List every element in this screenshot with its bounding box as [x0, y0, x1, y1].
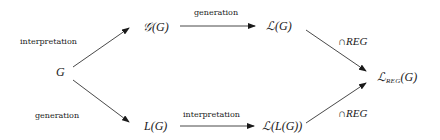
node-g: G: [56, 66, 65, 78]
reg-language-arg: (G): [401, 70, 418, 84]
label-generation-bottom: generation: [35, 112, 79, 120]
node-l-g: L(G): [144, 120, 167, 132]
label-intersect-reg-top: ∩REG: [338, 36, 367, 47]
intersection-symbol: ∩: [338, 107, 346, 119]
label-generation-top: generation: [194, 9, 238, 17]
reg-text: REG: [346, 107, 367, 119]
label-intersect-reg-bottom: ∩REG: [338, 108, 367, 119]
reg-text: REG: [346, 35, 367, 47]
arrow-g-to-l-g: [73, 80, 129, 122]
label-interpretation-top: interpretation: [20, 38, 77, 46]
label-interpretation-bottom: interpretation: [183, 111, 240, 119]
arrow-g-to-grammar-set: [73, 28, 129, 67]
node-regular-language: ℒREG(G): [377, 71, 417, 85]
node-language-of-grammar: ℒ(G): [266, 20, 292, 32]
intersection-symbol: ∩: [338, 35, 346, 47]
node-grammar-set: 𝒢(G): [143, 21, 169, 33]
reg-language-subscript: REG: [386, 77, 401, 85]
commutative-diagram: G 𝒢(G) ℒ(G) L(G) ℒ(L(G)) ℒREG(G) interpr…: [0, 0, 440, 140]
node-language-of-l: ℒ(L(G)): [262, 120, 302, 132]
reg-language-main: ℒ: [377, 70, 386, 84]
